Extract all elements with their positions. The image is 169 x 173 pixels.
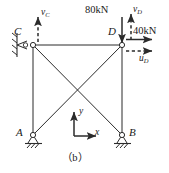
truss-members <box>33 45 122 135</box>
support-B-hatch <box>116 144 120 149</box>
dof-label-vC: vC <box>41 8 50 18</box>
coordinate-axes <box>74 112 96 136</box>
load-label-80kN: 80kN <box>85 5 108 16</box>
support-C-hatch <box>12 45 17 49</box>
truss-figure: C D A B 80kN 40kN vC vD uD y x （b） <box>0 0 169 173</box>
support-A-hatch <box>31 144 35 149</box>
dof-label-uD: uD <box>139 54 148 64</box>
node-label-C: C <box>14 26 21 37</box>
joint-C <box>30 42 35 47</box>
dof-label-vD: vD <box>133 5 142 15</box>
support-C-hatch <box>12 51 17 55</box>
joint-B <box>119 132 124 137</box>
dof-label-vC-subscript: C <box>45 11 49 18</box>
node-label-B: B <box>129 127 136 138</box>
axis-label-y: y <box>79 107 83 117</box>
support-A-hatch <box>35 144 39 149</box>
dof-label-vD-subscript: D <box>137 8 142 15</box>
node-label-D: D <box>108 26 116 37</box>
load-label-40kN: 40kN <box>133 26 156 37</box>
dof-label-uD-subscript: D <box>144 57 149 64</box>
node-label-A: A <box>16 127 23 138</box>
support-C-hatch <box>12 39 17 43</box>
joint-A <box>30 132 35 137</box>
axis-label-x: x <box>95 128 99 138</box>
support-A-hatch <box>27 144 31 149</box>
figure-caption: （b） <box>62 153 88 164</box>
support-B-hatch <box>124 144 128 149</box>
joint-D <box>119 42 124 47</box>
support-B-hatch <box>120 144 124 149</box>
support-C-roller <box>23 43 27 47</box>
